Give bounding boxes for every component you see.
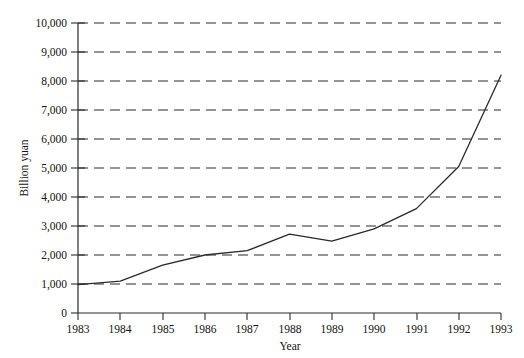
x-tick-label-1985: 1985 (152, 323, 175, 335)
data-series-line (78, 75, 501, 284)
x-tick-label-1987: 1987 (236, 323, 259, 335)
x-axis-title: Year (279, 340, 300, 352)
x-tick-marks-group (78, 313, 501, 320)
y-tick-label-9000: 9,000 (41, 46, 67, 59)
y-tick-label-5000: 5,000 (41, 162, 67, 175)
y-tick-label-1000: 1,000 (41, 278, 67, 291)
x-tick-label-1989: 1989 (321, 323, 344, 335)
y-tick-label-4000: 4,000 (41, 191, 67, 204)
y-tick-label-6000: 6,000 (41, 133, 67, 146)
y-tick-label-0: 0 (61, 307, 67, 319)
y-axis-title: Billion yuan (18, 139, 31, 196)
x-tick-label-1984: 1984 (109, 323, 132, 335)
chart-figure: 10,000 9,000 8,000 7,000 6,000 5,000 4,0… (0, 0, 524, 358)
y-tick-labels-group: 10,000 9,000 8,000 7,000 6,000 5,000 4,0… (35, 17, 67, 319)
y-tick-label-8000: 8,000 (41, 75, 67, 88)
x-tick-label-1983: 1983 (67, 323, 90, 335)
y-tick-label-3000: 3,000 (41, 220, 67, 233)
y-tick-label-7000: 7,000 (41, 104, 67, 117)
x-tick-label-1990: 1990 (363, 323, 386, 335)
line-chart-canvas: 10,000 9,000 8,000 7,000 6,000 5,000 4,0… (0, 0, 524, 358)
x-tick-label-1986: 1986 (194, 323, 217, 335)
x-tick-label-1988: 1988 (279, 323, 302, 335)
x-tick-label-1993: 1993 (490, 323, 513, 335)
y-tick-label-2000: 2,000 (41, 249, 67, 262)
x-tick-labels-group: 1983 1984 1985 1986 1987 1988 1989 1990 … (67, 323, 513, 335)
x-tick-label-1991: 1991 (406, 323, 429, 335)
x-tick-label-1992: 1992 (448, 323, 471, 335)
y-tick-label-10000: 10,000 (35, 17, 67, 30)
gridlines-group (78, 23, 501, 284)
